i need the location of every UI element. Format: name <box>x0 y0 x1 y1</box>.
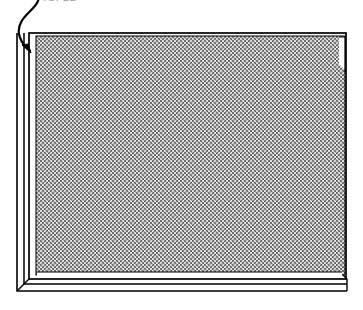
frame-bottom-channel <box>37 272 342 278</box>
frame-lip-corner-bevel-bottom-left <box>17 279 29 291</box>
figure-canvas: FIG. 2B <box>0 0 363 310</box>
hatched-screen-panel-overlay <box>36 36 345 275</box>
figure-vector-layer <box>0 0 363 310</box>
